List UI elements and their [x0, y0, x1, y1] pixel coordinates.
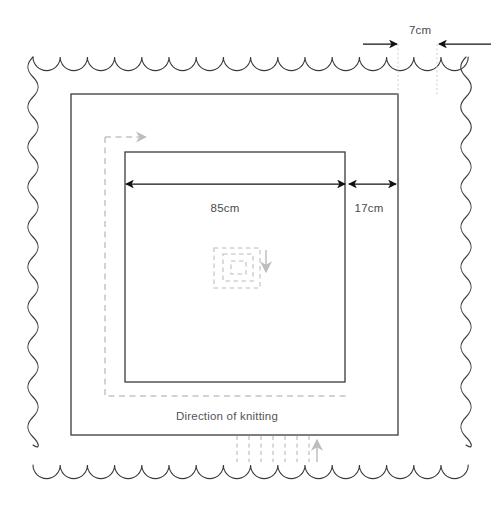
scallop-bottom	[33, 465, 468, 479]
middle-square	[71, 94, 398, 435]
knitting-schematic-diagram: 7cm 85cm 17cm Direction of knitting	[0, 0, 498, 508]
dim-7cm-label: 7cm	[409, 24, 431, 36]
knitting-direction-path	[105, 137, 350, 396]
bottom-comb-marks	[237, 436, 309, 462]
knit-path-loop	[105, 137, 350, 396]
center-spiral	[214, 248, 260, 288]
dim-7cm: 7cm	[363, 24, 491, 44]
spiral-ring-middle	[223, 254, 253, 281]
dim-85cm: 85cm	[126, 184, 345, 214]
inner-square	[125, 152, 345, 382]
diagram-canvas: 7cm 85cm 17cm Direction of knitting	[0, 0, 498, 508]
dim-17cm: 17cm	[349, 184, 396, 214]
spiral-ring-inner	[231, 261, 246, 274]
direction-of-knitting-caption: Direction of knitting	[176, 410, 278, 422]
scallop-top	[33, 57, 468, 71]
dim-17cm-label: 17cm	[355, 202, 384, 214]
dim-85cm-label: 85cm	[211, 202, 240, 214]
scallop-right	[461, 57, 472, 447]
scallop-left	[28, 57, 39, 447]
